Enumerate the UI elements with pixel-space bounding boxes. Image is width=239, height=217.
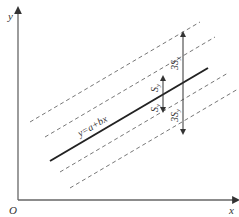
band-upper-1s (45, 37, 215, 137)
y-axis-label: y (7, 10, 13, 22)
inner-bottom-label: Sy (149, 103, 162, 112)
regression-band-diagram: y x O y=a+bx Sy Sy 3Sy 3Sy (0, 0, 239, 217)
origin-label: O (9, 204, 17, 216)
outer-bottom-label: 3Sy (169, 108, 182, 123)
confidence-bands (30, 22, 238, 188)
band-upper-3s (30, 22, 200, 122)
x-axis-label: x (228, 204, 234, 216)
inner-top-label: Sy (149, 83, 162, 92)
regression-line (50, 68, 208, 161)
outer-top-label: 3Sy (169, 56, 182, 71)
axes: y x O (7, 10, 236, 216)
band-lower-3s (70, 89, 238, 188)
